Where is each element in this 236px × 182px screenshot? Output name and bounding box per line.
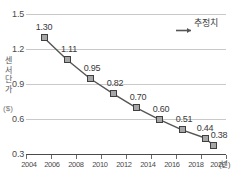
chart-legend: 추정치: [176, 19, 217, 28]
data-label-2016: 0.51: [167, 115, 201, 124]
data-point-2012: [133, 104, 140, 111]
data-label-2004: 1.30: [27, 23, 61, 32]
data-label-2012: 0.70: [121, 93, 155, 102]
data-point-2016: [179, 126, 186, 133]
data-point-2006: [64, 56, 71, 63]
legend-line-marker-icon: [176, 20, 191, 27]
data-label-2010: 0.82: [98, 79, 132, 88]
data-point-2014: [156, 116, 163, 123]
legend-label-estimate: 추정치: [194, 19, 217, 28]
sensor-price-line-chart: 1.5 1.2 0.9 0.6 0.3 센 서 단 가 ($) 2004 200…: [0, 0, 236, 182]
data-point-2004: [41, 34, 48, 41]
data-label-2020: 0.38: [202, 131, 236, 140]
data-label-2014: 0.60: [144, 105, 178, 114]
data-label-2008: 0.95: [75, 64, 109, 73]
data-point-2020: [210, 142, 217, 149]
data-point-2008: [87, 75, 94, 82]
data-point-2010: [110, 90, 117, 97]
data-label-2006: 1.11: [52, 45, 86, 54]
